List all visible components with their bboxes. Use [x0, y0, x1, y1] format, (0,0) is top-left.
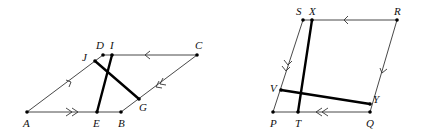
segment-VY [281, 90, 370, 104]
segment-XT [298, 20, 312, 112]
label-G: G [139, 101, 147, 113]
point-X [310, 18, 314, 22]
label-I: I [109, 39, 115, 51]
label-E: E [92, 117, 100, 129]
point-A [25, 110, 29, 114]
label-P: P [269, 117, 277, 129]
point-C [195, 53, 199, 57]
arrow-mark-RQ [380, 68, 387, 73]
point-Y [368, 102, 372, 106]
label-A: A [22, 117, 30, 129]
label-D: D [95, 39, 104, 51]
double-arrow-mark-SP-2 [282, 66, 290, 71]
label-Q: Q [366, 117, 374, 129]
label-T: T [295, 117, 302, 129]
label-Y: Y [373, 93, 381, 105]
label-S: S [296, 5, 302, 17]
double-arrow-mark-SP-1 [284, 60, 292, 65]
point-R [395, 18, 399, 22]
point-S [301, 18, 305, 22]
point-D [101, 53, 105, 57]
point-Q [368, 110, 372, 114]
label-V: V [270, 82, 278, 94]
side-DA [27, 55, 103, 112]
point-E [95, 110, 99, 114]
side-BC [121, 55, 197, 112]
side-SP [273, 20, 303, 112]
geometry-diagram: A E B G C D I J S X R P [0, 0, 424, 138]
point-B [119, 110, 123, 114]
point-P [271, 110, 275, 114]
figure-right: S X R P T Q V Y [269, 5, 401, 129]
point-V [279, 88, 283, 92]
point-T [296, 110, 300, 114]
label-R: R [393, 5, 401, 17]
point-J [93, 59, 97, 63]
point-I [110, 53, 114, 57]
arrow-mark-AD [66, 80, 71, 87]
figure-left: A E B G C D I J [22, 39, 203, 129]
label-B: B [118, 117, 125, 129]
label-J: J [82, 51, 88, 63]
label-C: C [195, 39, 203, 51]
label-X: X [308, 5, 317, 17]
